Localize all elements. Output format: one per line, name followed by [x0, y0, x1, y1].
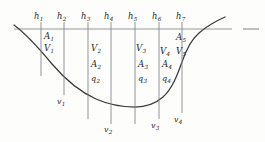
bed-velocity-label-v3: v3: [151, 122, 159, 130]
channel-cross-section-figure: h1 h2 h3 h4 h5 h6 h7 A1 A2 A3 A4 A5 V1 V…: [0, 0, 265, 142]
depth-label-h3: h3: [81, 12, 90, 21]
depth-label-h6: h6: [152, 12, 161, 21]
discharge-label-q3: q3: [138, 75, 147, 83]
area-label-a1: A1: [44, 32, 54, 41]
bed-velocity-label-v2: v2: [104, 126, 112, 134]
discharge-label-q4: q4: [162, 75, 171, 83]
area-label-a3: A3: [138, 60, 148, 69]
depth-label-h5: h5: [128, 12, 137, 21]
velocity-label-v1: V1: [44, 44, 54, 53]
velocity-label-v3: V3: [136, 44, 146, 53]
area-label-a5: A5: [176, 33, 186, 42]
area-label-a4: A4: [162, 60, 172, 69]
measurement-verticals: [41, 22, 182, 124]
velocity-label-v4: V4: [160, 47, 170, 56]
depth-label-h2: h2: [57, 12, 66, 21]
depth-label-h7: h7: [176, 12, 185, 21]
velocity-label-v5: V5: [176, 47, 186, 56]
bed-velocity-label-v1: v1: [57, 98, 65, 106]
area-label-a2: A2: [91, 60, 101, 69]
bed-velocity-label-v4: v4: [174, 116, 182, 124]
discharge-label-q2: q2: [91, 75, 100, 83]
depth-label-h4: h4: [104, 12, 113, 21]
velocity-label-v2: V2: [91, 44, 101, 53]
depth-label-h1: h1: [34, 12, 43, 21]
